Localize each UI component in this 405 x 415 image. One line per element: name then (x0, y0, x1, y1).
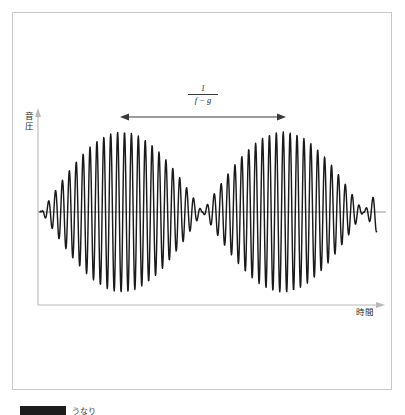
y-axis-arrowhead (35, 108, 41, 117)
y-axis (35, 108, 41, 305)
beat-period-arrow-left-head (120, 114, 129, 121)
beat-waveform-chart: 音 圧 時間 1 f − g (0, 0, 405, 415)
x-axis (38, 302, 385, 308)
beat-period-arrow (120, 114, 286, 121)
y-axis-label: 音 圧 (24, 112, 35, 131)
beat-period-arrow-right-head (277, 114, 286, 121)
beat-period-denominator: f − g (170, 95, 236, 105)
figure-caption-text: うなり (72, 405, 96, 415)
figure-number-badge (20, 406, 66, 415)
x-axis-label: 時間 (356, 308, 374, 318)
figure-caption-row: うなり (12, 404, 392, 415)
beat-period-numerator: 1 (170, 84, 236, 93)
chart-svg (0, 0, 405, 415)
beat-period-label: 1 f − g (170, 84, 236, 105)
x-axis-arrowhead (376, 302, 385, 308)
